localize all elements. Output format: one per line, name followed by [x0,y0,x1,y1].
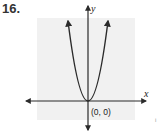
vertex-label: (0, 0) [91,107,111,117]
parabola-graph: y x (0, 0) i [0,0,160,138]
stray-mark: i [155,117,156,123]
x-axis-label: x [143,88,149,99]
plot-area [37,18,135,120]
y-axis-label: y [90,3,96,14]
